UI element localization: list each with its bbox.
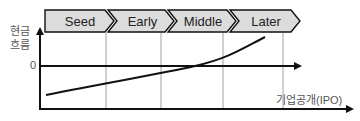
y-axis-label-line1: 현금 (10, 24, 30, 38)
y-axis-label-line2: 흐름 (10, 38, 30, 52)
zero-line-arrow-icon (294, 62, 302, 70)
x-axis-arrow-icon (346, 105, 354, 113)
stage-dividers (106, 33, 283, 109)
y-axis-arrow-icon (36, 27, 44, 35)
stage-label-early: Early (115, 11, 170, 32)
stage-label-seed: Seed (50, 11, 110, 32)
stage-label-middle: Middle (175, 11, 231, 32)
zero-label: 0 (30, 59, 36, 71)
stage-label-later: Later (237, 11, 295, 32)
x-axis-label: 기업공개(IPO) (276, 91, 342, 107)
